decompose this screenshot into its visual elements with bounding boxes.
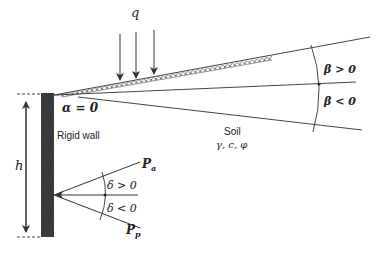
surcharge-label: q	[131, 6, 139, 19]
soil-surface-line	[54, 37, 370, 95]
beta-arc-point	[317, 82, 320, 85]
passive-force-label: Pp	[126, 224, 141, 238]
active-force-label: Pa	[142, 158, 156, 172]
beta-angle-arc	[311, 45, 319, 132]
wall-angle-label: α = 0	[62, 102, 98, 114]
diagram-canvas	[0, 0, 383, 256]
height-label: h	[15, 159, 23, 172]
soil-label: Soil	[224, 127, 241, 137]
negative-slope-line	[78, 97, 362, 130]
soil-params-label: γ, c, φ	[216, 140, 247, 150]
hatch-lower-boundary	[62, 60, 272, 97]
beta-positive-label: β > 0	[324, 64, 356, 75]
rigid-wall	[41, 93, 54, 237]
soil-surface-hatch	[54, 56, 272, 97]
surcharge-arrows	[120, 30, 154, 80]
rigid-wall-label: Rigid wall	[57, 131, 100, 141]
delta-positive-label: δ > 0	[107, 180, 137, 191]
delta-negative-label: δ < 0	[107, 203, 137, 214]
delta-arc-point	[104, 194, 107, 197]
beta-negative-label: β < 0	[324, 96, 356, 107]
